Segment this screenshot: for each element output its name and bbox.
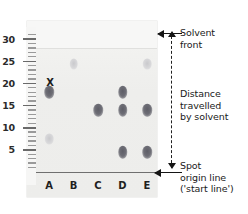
spot-origin-line — [28, 172, 156, 173]
chromatogram-spot — [93, 104, 103, 117]
ruler-major-tick — [23, 83, 36, 85]
origin-line-pointer-arrow-icon — [155, 172, 182, 173]
ruler-minor-tick — [28, 34, 36, 35]
ruler-tick-label-15: 15 — [2, 101, 15, 111]
ruler-minor-tick — [28, 162, 36, 163]
ruler-major-tick — [23, 38, 36, 40]
chromatography-paper: X — [27, 21, 157, 197]
ruler-minor-tick — [28, 136, 36, 137]
ruler-minor-tick — [28, 145, 36, 146]
ruler-minor-tick — [28, 65, 36, 66]
annotation-distance-line2: travelled — [180, 100, 228, 112]
solvent-front-line — [27, 48, 157, 49]
lane-label-d: D — [118, 181, 126, 191]
ruler-tick-label-30: 30 — [2, 35, 15, 45]
ruler-minor-tick — [28, 100, 36, 101]
ruler-tick-label-5: 5 — [9, 145, 15, 155]
chromatogram-spot — [118, 104, 128, 117]
ruler-minor-tick — [28, 56, 36, 57]
ruler-major-tick — [23, 105, 36, 107]
lane-label-b: B — [70, 181, 78, 191]
ruler-minor-tick — [28, 154, 36, 155]
annotation-origin-line1: Spot — [180, 160, 234, 172]
annotation-distance-line1: Distance — [180, 88, 228, 100]
ruler-minor-tick — [28, 43, 36, 44]
chromatogram-spot — [45, 133, 54, 144]
lane-label-a: A — [45, 181, 53, 191]
solvent-distance-measure-line — [171, 36, 172, 168]
chromatogram-spot — [142, 104, 152, 117]
ruler-minor-tick — [28, 114, 36, 115]
ruler-major-tick — [23, 127, 36, 129]
annotation-distance-travelled: Distance travelled by solvent — [180, 88, 228, 123]
ruler-minor-tick — [28, 52, 36, 53]
annotation-solvent-front-line1: Solvent — [180, 27, 215, 39]
ruler-minor-tick — [28, 158, 36, 159]
lane-label-e: E — [144, 181, 151, 191]
ruler-tick-label-25: 25 — [2, 57, 15, 67]
ruler-minor-tick — [28, 123, 36, 124]
chromatogram-spot — [118, 86, 128, 99]
ruler-minor-tick — [28, 96, 36, 97]
annotation-origin-line2: origin line — [180, 172, 234, 184]
ruler-minor-tick — [28, 140, 36, 141]
chromatogram-spot — [142, 146, 152, 159]
annotation-distance-line3: by solvent — [180, 111, 228, 123]
annotation-solvent-front: Solvent front — [180, 27, 215, 50]
solvent-front-region — [27, 21, 157, 48]
ruler-minor-tick — [28, 109, 36, 110]
lane-label-c: C — [94, 181, 101, 191]
annotation-solvent-front-line2: front — [180, 39, 215, 51]
ruler-minor-tick — [28, 69, 36, 70]
ruler-minor-tick — [28, 118, 36, 119]
ruler-major-tick — [23, 61, 36, 63]
chromatogram-spot — [69, 58, 78, 69]
ruler-minor-tick — [28, 131, 36, 132]
ruler-minor-tick — [28, 74, 36, 75]
ruler-minor-tick — [28, 167, 36, 168]
ruler-minor-tick — [28, 87, 36, 88]
chromatogram-spot — [143, 58, 152, 69]
annotation-spot-origin: Spot origin line ('start line') — [180, 160, 234, 195]
lane-label-row: ABCDE — [27, 181, 157, 197]
distance-ruler: 51015202530 — [16, 27, 36, 185]
spot-x-marker: X — [46, 78, 54, 88]
chromatogram-figure: X 51015202530 ABCDE Solvent front Distan… — [0, 0, 248, 214]
measure-arrowhead-down-icon — [168, 163, 176, 169]
chromatogram-spot — [118, 146, 128, 159]
ruler-major-tick — [23, 149, 36, 151]
ruler-minor-tick — [28, 47, 36, 48]
ruler-minor-tick — [28, 92, 36, 93]
ruler-tick-label-10: 10 — [2, 123, 15, 133]
ruler-tick-label-20: 20 — [2, 79, 15, 89]
annotation-origin-line3: ('start line') — [180, 183, 234, 195]
ruler-minor-tick — [28, 78, 36, 79]
solvent-front-pointer-arrow-icon — [158, 33, 182, 34]
